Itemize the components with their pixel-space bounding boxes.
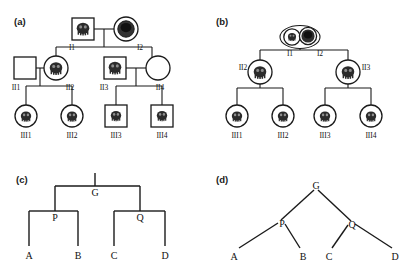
tree-d-node-D[interactable]: D [391,251,398,262]
pedigree-b-sibship-gen2 [260,49,348,61]
pedigree-a-individual-III4[interactable]: III4 [151,105,173,140]
tree-c-edge-P-B[interactable] [55,211,78,246]
pedigree-b-individual-II3[interactable]: II3 [336,60,371,84]
pedigree-b-sibship-gen3-right [325,84,371,105]
panel-a: (a) I1 I2 II1 [12,16,173,140]
pedigree-a-label-III3: III3 [110,131,121,140]
pedigree-b-individual-III2[interactable]: III2 [272,105,294,140]
tree-d-edge-P-B[interactable] [285,224,300,248]
tree-c-node-A[interactable]: A [25,250,33,261]
tree-d-node-P[interactable]: P [279,218,285,229]
pedigree-a-label-III1: III1 [20,131,31,140]
pedigree-b-individual-III4[interactable]: III4 [360,105,382,140]
tree-d-node-Q[interactable]: Q [348,219,356,230]
tree-c-edge-G-Q[interactable] [95,186,140,211]
tree-d-edge-G-Q[interactable] [318,190,351,221]
tree-c-node-B[interactable]: B [75,250,82,261]
tree-d-node-B[interactable]: B [300,251,307,262]
pedigree-b-label-III1: III1 [231,131,242,140]
pedigree-b-label-II2: II2 [239,63,248,72]
tree-d-edge-P-A[interactable] [239,223,278,248]
pedigree-a-label-II4: II4 [156,83,165,92]
tree-c-edge-Q-D[interactable] [140,211,165,246]
tree-d-node-C[interactable]: C [326,251,333,262]
tree-d-edge-Q-C[interactable] [332,225,348,248]
pedigree-a-individual-III2[interactable]: III2 [61,105,83,140]
pedigree-a-individual-III3[interactable]: III3 [105,105,127,140]
panel-b-label: (b) [216,16,228,27]
panel-a-label: (a) [14,16,26,27]
pedigree-a-label-II2: II2 [66,83,75,92]
pedigree-b-sibship-gen3-left [237,84,283,105]
tree-d-node-A[interactable]: A [230,251,238,262]
tree-d-edge-Q-D[interactable] [355,224,392,248]
panel-d: (d) G P Q A B C D [216,174,399,262]
pedigree-a-label-III2: III2 [66,131,77,140]
tree-c-node-D[interactable]: D [161,250,168,261]
pedigree-a-label-II3: II3 [100,83,109,92]
pedigree-b-individual-III3[interactable]: III3 [314,105,336,140]
tree-c-edge-G-P[interactable] [55,186,95,211]
pedigree-a-individual-II1[interactable]: II1 [12,57,36,92]
tree-c-edge-P-A[interactable] [29,211,55,246]
pedigree-b-label-III2: III2 [277,131,288,140]
tree-d-edge-G-P[interactable] [281,190,314,220]
pedigree-b-label-II3: II3 [362,63,371,72]
panel-b: (b) I1 I2 [216,16,382,140]
pedigree-b-label-III4: III4 [365,131,376,140]
tree-c-node-P[interactable]: P [52,212,58,223]
pedigree-b-individual-I1[interactable] [284,29,300,45]
pedigree-a-label-II1: II1 [12,83,21,92]
panel-d-label: (d) [216,174,228,185]
panel-c: (c) G [16,173,169,261]
pedigree-b-individual-I2[interactable] [299,27,316,44]
pedigree-a-label-III4: III4 [156,131,167,140]
pedigree-a-individual-II4[interactable]: II4 [146,56,170,92]
pedigree-a-individual-II3[interactable]: II3 [100,57,126,92]
pedigree-b-individual-III1[interactable]: III1 [226,105,248,140]
tree-c-node-C[interactable]: C [111,250,118,261]
tree-c-node-Q[interactable]: Q [136,212,144,223]
pedigree-b-label-III3: III3 [319,131,330,140]
pedigree-a-individual-II2[interactable]: II2 [44,56,75,92]
figure-canvas: (a) I1 I2 II1 [0,0,400,272]
pedigree-a-individual-III1[interactable]: III1 [15,105,37,140]
panel-c-label: (c) [16,174,28,185]
pedigree-b-individual-II2[interactable]: II2 [239,60,272,84]
pedigree-b-founder-couple[interactable]: I1 I2 [280,26,323,59]
tree-c-node-G[interactable]: G [91,187,98,198]
tree-d-node-G[interactable]: G [312,180,319,191]
